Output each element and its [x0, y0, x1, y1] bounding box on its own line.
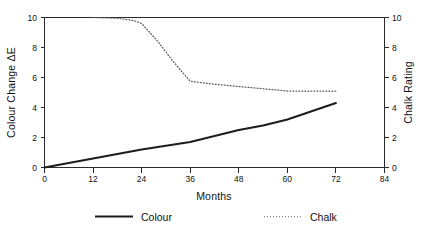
y-left-tick-label-4: 4: [32, 103, 37, 113]
y-right-tick-label-2: 2: [392, 133, 397, 143]
x-tick-label-72: 72: [331, 174, 341, 184]
plot-frame: [45, 18, 385, 168]
y-right-tick-label-6: 6: [392, 73, 397, 83]
y-right-tick-label-10: 10: [392, 13, 402, 23]
y-right-tick-label-0: 0: [392, 163, 397, 173]
legend-item-colour: Colour: [95, 211, 172, 223]
y-left-tick-label-0: 0: [32, 163, 37, 173]
x-tick-label-0: 0: [42, 174, 47, 184]
x-tick-label-48: 48: [234, 174, 244, 184]
x-tick-label-12: 12: [88, 174, 98, 184]
y-right-axis-title: Chalk Rating: [402, 61, 414, 124]
y-right-tick-label-4: 4: [392, 103, 397, 113]
x-tick-labels: 0 12 24 36 48 60 72 84: [42, 174, 389, 184]
x-tick-label-24: 24: [137, 174, 147, 184]
y-left-tick-label-2: 2: [32, 133, 37, 143]
y-left-tick-label-6: 6: [32, 73, 37, 83]
chart-legend: Colour Chalk: [95, 211, 338, 223]
y-right-tick-labels: 0 2 4 6 8 10: [392, 13, 402, 173]
chart-figure: 0 2 4 6 8 10 0 2 4 6 8 10 0 12 24: [0, 0, 423, 229]
x-tick-label-36: 36: [185, 174, 195, 184]
x-tick-label-60: 60: [283, 174, 293, 184]
x-axis-title: Months: [196, 190, 232, 202]
y-left-tick-labels: 0 2 4 6 8 10: [28, 13, 38, 173]
series-line-chalk: [93, 18, 336, 92]
y-left-ticks: [41, 18, 45, 168]
x-tick-label-84: 84: [380, 174, 390, 184]
y-left-axis-title: Colour Change ΔE: [5, 47, 17, 138]
y-left-tick-label-10: 10: [28, 13, 38, 23]
y-right-tick-label-8: 8: [392, 43, 397, 53]
x-ticks: [45, 168, 385, 173]
legend-item-chalk: Chalk: [264, 211, 338, 223]
y-left-tick-label-8: 8: [32, 43, 37, 53]
y-right-ticks: [385, 18, 389, 168]
legend-label-chalk: Chalk: [310, 211, 338, 223]
series-line-colour: [45, 103, 336, 168]
legend-label-colour: Colour: [141, 211, 172, 223]
data-series-group: [45, 18, 336, 168]
